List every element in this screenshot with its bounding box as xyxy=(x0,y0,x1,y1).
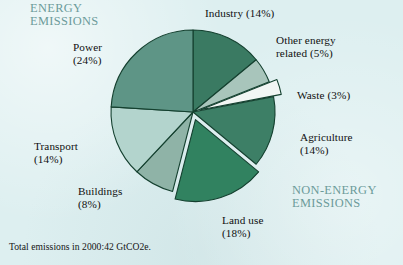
slice-label-waste: Waste (3%) xyxy=(297,89,350,102)
slice-label-power: Power (24%) xyxy=(73,41,102,66)
slice-label-transport: Transport (14%) xyxy=(34,140,78,165)
slice-label-industry: Industry (14%) xyxy=(205,7,274,20)
section-label-non-energy-emissions: NON-ENERGY EMISSIONS xyxy=(292,184,377,211)
pie-chart xyxy=(100,22,300,227)
figure-canvas: Industry (14%) Other energy related (5%)… xyxy=(0,0,403,265)
section-label-energy-emissions: ENERGY EMISSIONS xyxy=(30,2,99,29)
slice-label-land-use: Land use (18%) xyxy=(222,214,264,239)
footnote-total-emissions: Total emissions in 2000:42 GtCO2e. xyxy=(9,241,151,252)
slice-label-buildings: Buildings (8%) xyxy=(78,185,122,210)
slice-label-agriculture: Agriculture (14%) xyxy=(300,131,353,156)
pie-slice-power[interactable] xyxy=(111,30,193,112)
slice-label-other-energy: Other energy related (5%) xyxy=(276,34,336,59)
